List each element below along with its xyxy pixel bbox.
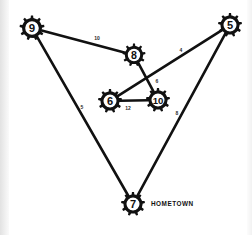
edge-9-8 — [42, 31, 126, 53]
edge-weight-5-7: 8 — [176, 110, 179, 116]
node-6[interactable]: 6 — [98, 89, 122, 113]
edge-weight-8-10: 6 — [156, 78, 159, 84]
node-7[interactable]: 7 — [121, 192, 145, 216]
node-9[interactable]: 9 — [20, 16, 45, 41]
annotations-layer: HOMETOWN — [151, 200, 194, 207]
edge-5-7 — [138, 33, 226, 195]
diagram-canvas: 9586107 10548612 HOMETOWN — [0, 0, 252, 235]
node-label: 6 — [107, 95, 113, 107]
edge-weight-9-8: 10 — [94, 35, 100, 41]
edge-9-7 — [37, 37, 128, 196]
edge-weight-5-6: 4 — [180, 47, 183, 53]
edge-8-10 — [138, 63, 153, 92]
nodes-layer: 9586107 — [20, 13, 242, 216]
edge-weight-9-7: 5 — [81, 104, 84, 110]
edge-weight-6-10: 12 — [125, 105, 131, 111]
node-5[interactable]: 5 — [218, 13, 242, 37]
weighted-graph: 9586107 10548612 HOMETOWN — [0, 0, 252, 235]
node-label: 9 — [29, 22, 35, 34]
node-label: 7 — [130, 198, 136, 210]
node-label: 8 — [131, 49, 137, 61]
annotation-hometown: HOMETOWN — [151, 200, 194, 207]
node-10[interactable]: 10 — [146, 88, 170, 112]
edge-6-10 — [120, 100, 149, 101]
node-label: 5 — [227, 19, 233, 31]
node-8[interactable]: 8 — [123, 44, 146, 67]
node-label: 10 — [153, 95, 164, 106]
